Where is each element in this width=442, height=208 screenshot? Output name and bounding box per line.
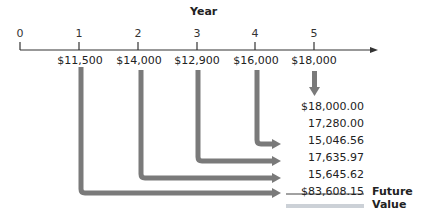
year-label: 0 [17,27,24,40]
future-value-item: 15,645.62 [284,168,364,181]
future-value-item: 17,635.97 [284,151,364,164]
cash-flow-label: $12,900 [174,54,220,67]
cash-flow-label: $18,000 [291,54,337,67]
year-label: 4 [252,27,259,40]
arrow-right-icon [272,188,281,198]
axis-arrowhead-icon [370,47,378,53]
cash-flow-label: $11,500 [57,54,103,67]
future-value-item: 17,280.00 [284,117,364,130]
arrow-right-icon [272,139,281,149]
cash-flow-label: $14,000 [116,54,162,67]
axis-title: Year [190,5,217,18]
cash-flow-label: $16,000 [233,54,279,67]
future-value-total: $83,608.15 [284,185,364,198]
arrow-right-icon [272,173,281,183]
future-value-label: Future Value [372,185,442,208]
year-label: 5 [311,27,318,40]
arrow-down-icon [309,87,320,96]
arrow-right-icon [272,156,281,166]
future-value-item: 15,046.56 [284,134,364,147]
future-value-item: $18,000.00 [284,100,364,113]
year-label: 2 [135,27,142,40]
year-label: 3 [194,27,201,40]
timeline-diagram [0,0,442,208]
year-label: 1 [76,27,83,40]
